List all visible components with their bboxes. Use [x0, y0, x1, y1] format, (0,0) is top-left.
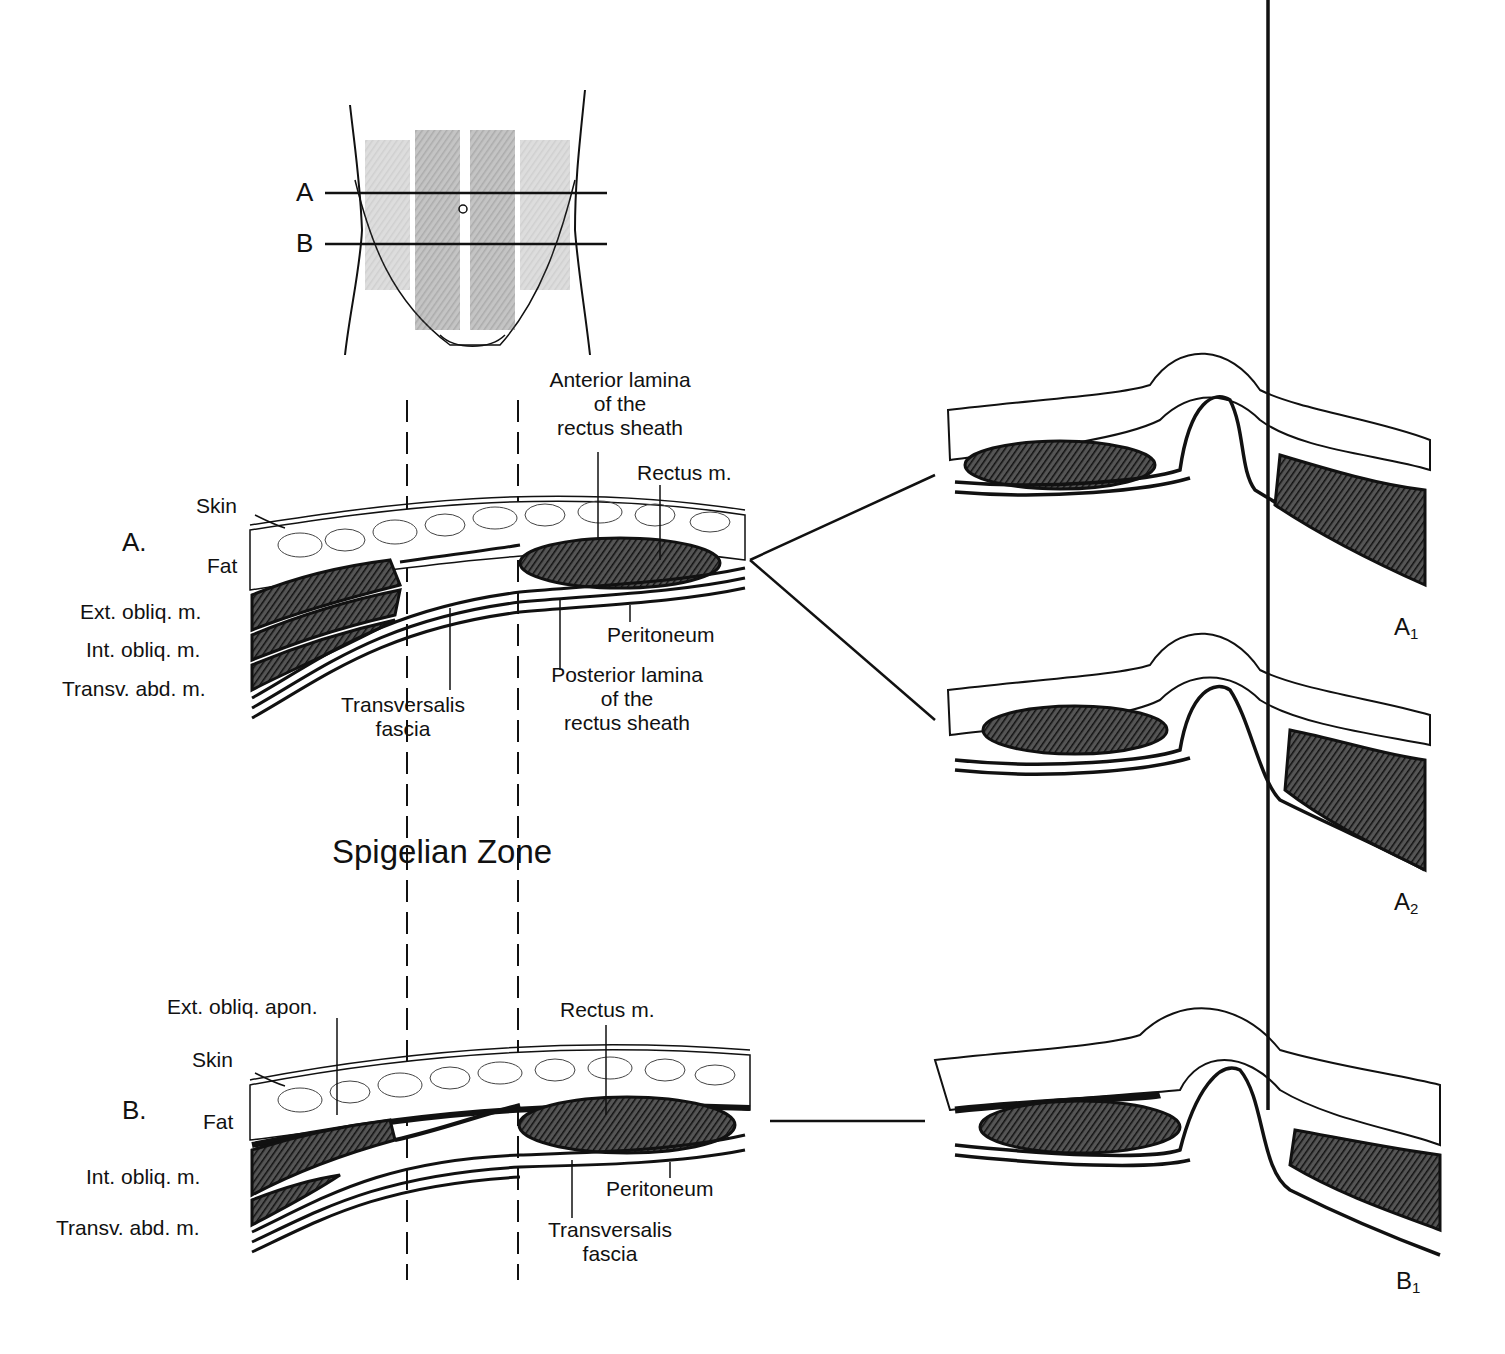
label-fat-b: Fat: [203, 1110, 233, 1134]
label-transv-abd-a: Transv. abd. m.: [62, 677, 206, 701]
label-rectus-a: Rectus m.: [637, 461, 732, 485]
figure-title: Spigelian Zone: [332, 840, 552, 864]
label-anterior-lamina: Anterior lamina of the rectus sheath: [530, 368, 710, 440]
anatomy-illustration: [0, 0, 1505, 1354]
label-skin-b: Skin: [192, 1048, 233, 1072]
label-ext-obliq-apon: Ext. obliq. apon.: [167, 995, 318, 1019]
label-posterior-lamina: Posterior lamina of the rectus sheath: [527, 663, 727, 735]
torso-inset: [325, 90, 607, 355]
section-a-marker: A.: [122, 530, 147, 554]
hernia-panel-a2: [948, 634, 1430, 870]
label-transversalis-fascia-a: Transversalis fascia: [318, 693, 488, 741]
hernia-panel-a1: [948, 354, 1430, 585]
panel-label-a1: A1: [1394, 613, 1418, 642]
torso-line-a-label: A: [296, 180, 313, 204]
panel-label-a2: A2: [1394, 888, 1418, 917]
label-skin-a: Skin: [196, 494, 237, 518]
label-int-obliq-a: Int. obliq. m.: [86, 638, 200, 662]
label-ext-obliq-a: Ext. obliq. m.: [80, 600, 201, 624]
panel-label-b1: B1: [1396, 1267, 1420, 1296]
section-b-marker: B.: [122, 1098, 147, 1122]
label-peritoneum-b: Peritoneum: [606, 1177, 713, 1201]
label-rectus-b: Rectus m.: [560, 998, 655, 1022]
label-transversalis-fascia-b: Transversalis fascia: [530, 1218, 690, 1266]
label-transv-abd-b: Transv. abd. m.: [56, 1216, 200, 1240]
label-peritoneum-a: Peritoneum: [607, 623, 714, 647]
hernia-panel-b1: [935, 0, 1440, 1255]
label-fat-a: Fat: [207, 554, 237, 578]
section-b-diagram: [250, 1018, 925, 1252]
torso-line-b-label: B: [296, 231, 313, 255]
label-int-obliq-b: Int. obliq. m.: [86, 1165, 200, 1189]
